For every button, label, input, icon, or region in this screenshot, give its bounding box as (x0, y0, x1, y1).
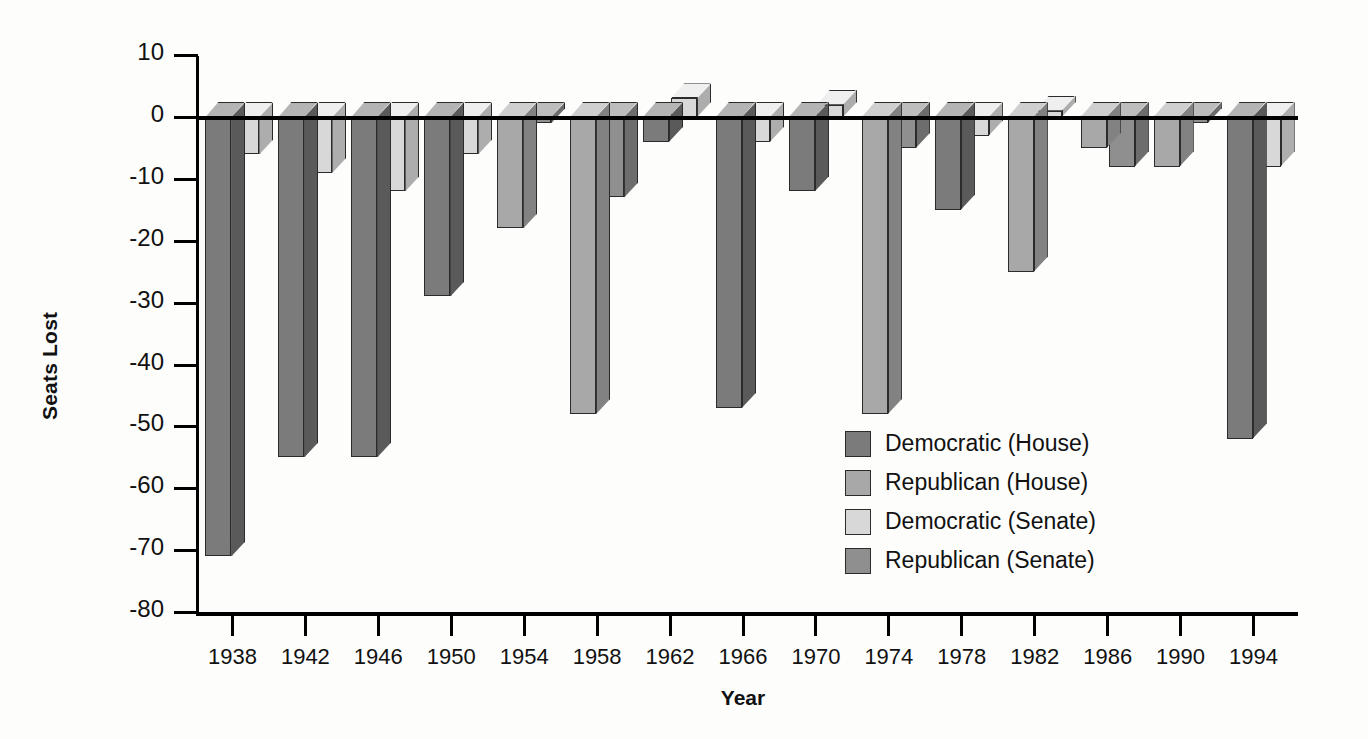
bar-side-face (450, 102, 464, 296)
legend-label-dem_senate: Democratic (Senate) (885, 508, 1096, 535)
bar-1950-house (424, 102, 463, 296)
x-tick-mark (304, 616, 307, 636)
legend-item-dem_senate[interactable]: Democratic (Senate) (845, 508, 1096, 535)
bar-side-face (888, 102, 902, 414)
x-tick-label: 1994 (1209, 644, 1299, 670)
x-tick-mark (1106, 616, 1109, 636)
bar-front-face (278, 117, 304, 457)
y-tick-mark (174, 425, 198, 428)
bar-front-face (351, 117, 377, 457)
bar-1962-house (643, 102, 682, 142)
bar-1982-house (1008, 102, 1047, 272)
x-tick-mark (960, 616, 963, 636)
y-axis-line (196, 56, 199, 615)
x-tick-mark (742, 616, 745, 636)
bar-1994-house (1227, 102, 1266, 439)
x-tick-mark (1179, 616, 1182, 636)
bar-front-face (1008, 117, 1034, 272)
bar-1954-house (497, 102, 536, 228)
bar-front-face (424, 117, 450, 296)
y-tick-mark (174, 549, 198, 552)
legend-item-dem_house[interactable]: Democratic (House) (845, 430, 1090, 457)
bar-side-face (523, 102, 537, 228)
bar-1966-house (716, 102, 755, 408)
bar-front-face (497, 117, 523, 228)
x-tick-mark (1252, 616, 1255, 636)
x-axis-title: Year (196, 686, 1290, 710)
x-axis-line (196, 612, 1298, 616)
legend-item-rep_senate[interactable]: Republican (Senate) (845, 547, 1095, 574)
legend-swatch-dem_senate (845, 509, 871, 535)
legend-swatch-rep_senate (845, 548, 871, 574)
y-tick-mark (174, 611, 198, 614)
bar-front-face (1227, 117, 1253, 439)
bar-side-face (377, 102, 391, 457)
y-tick-label: 0 (46, 100, 164, 128)
x-tick-mark (814, 616, 817, 636)
bar-front-face (862, 117, 888, 414)
bar-front-face (1081, 117, 1107, 148)
chart-canvas: Seats Lost 100-10-20-30-40-50-60-70-80 1… (0, 0, 1368, 739)
bar-front-face (643, 117, 669, 142)
bar-side-face (231, 102, 245, 556)
x-tick-mark (1033, 616, 1036, 636)
x-tick-mark (231, 616, 234, 636)
bar-side-face (304, 102, 318, 457)
bar-side-face (1253, 102, 1267, 439)
bar-front-face (716, 117, 742, 408)
legend-item-rep_house[interactable]: Republican (House) (845, 469, 1088, 496)
bar-1942-house (278, 102, 317, 457)
legend-label-rep_house: Republican (House) (885, 469, 1088, 496)
y-tick-mark (174, 240, 198, 243)
bar-front-face (935, 117, 961, 210)
legend-label-dem_house: Democratic (House) (885, 430, 1090, 457)
y-tick-mark (174, 302, 198, 305)
y-tick-label: -20 (46, 224, 164, 252)
y-tick-label: -10 (46, 162, 164, 190)
bar-side-face (596, 102, 610, 414)
y-tick-label: -60 (46, 471, 164, 499)
bar-1938-house (205, 102, 244, 556)
legend-label-rep_senate: Republican (Senate) (885, 547, 1095, 574)
x-tick-mark (377, 616, 380, 636)
y-tick-mark (174, 178, 198, 181)
y-tick-mark (174, 54, 198, 57)
bar-front-face (205, 117, 231, 556)
zero-baseline (196, 116, 1298, 120)
x-tick-mark (669, 616, 672, 636)
bar-1986-house (1081, 102, 1120, 148)
x-tick-mark (523, 616, 526, 636)
y-tick-label: -30 (46, 286, 164, 314)
legend-swatch-dem_house (845, 431, 871, 457)
y-tick-label: -70 (46, 533, 164, 561)
y-tick-label: -80 (46, 595, 164, 623)
bar-side-face (742, 102, 756, 408)
bar-front-face (570, 117, 596, 414)
y-tick-mark (174, 116, 198, 119)
bar-1990-house (1154, 102, 1193, 167)
bar-front-face (1154, 117, 1180, 167)
bar-1958-house (570, 102, 609, 414)
y-tick-label: -50 (46, 409, 164, 437)
y-tick-mark (174, 364, 198, 367)
x-tick-mark (450, 616, 453, 636)
legend-swatch-rep_house (845, 470, 871, 496)
y-tick-label: 10 (46, 38, 164, 66)
x-tick-mark (596, 616, 599, 636)
bar-side-face (1034, 102, 1048, 272)
x-tick-mark (887, 616, 890, 636)
bar-1974-house (862, 102, 901, 414)
bar-1946-house (351, 102, 390, 457)
y-tick-label: -40 (46, 348, 164, 376)
y-tick-mark (174, 487, 198, 490)
bar-front-face (789, 117, 815, 191)
